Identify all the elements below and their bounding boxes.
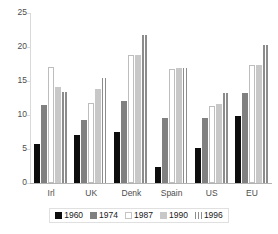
bar-us-1960[interactable]: [195, 148, 201, 183]
bar-group-denk: [114, 13, 148, 183]
y-tick-0: 0: [3, 178, 27, 187]
x-axis-tick-labels: IrlUKDenkSpainUSEU: [31, 186, 272, 202]
x-tick-eu: EU: [232, 186, 272, 202]
y-tick-20: 20: [3, 42, 27, 51]
x-tick-irl: Irl: [31, 186, 71, 202]
bar-eu-1987[interactable]: [249, 65, 255, 183]
bar-spain-1960[interactable]: [155, 167, 161, 183]
bar-uk-1996[interactable]: [102, 78, 108, 183]
legend-item-1987[interactable]: 1987: [125, 211, 153, 220]
bar-denk-1996[interactable]: [142, 35, 148, 183]
x-tick-spain: Spain: [152, 186, 192, 202]
bar-uk-1960[interactable]: [74, 135, 80, 183]
legend-item-1990[interactable]: 1990: [160, 211, 188, 220]
y-tick-5: 5: [3, 144, 27, 153]
bar-group-uk: [74, 13, 108, 183]
chart-legend: 19601974198719901996: [0, 208, 278, 223]
legend-item-1996[interactable]: 1996: [195, 211, 223, 220]
bar-uk-1987[interactable]: [88, 103, 94, 183]
legend-swatch-icon-1974: [90, 212, 97, 219]
legend-label-1987: 1987: [134, 211, 153, 220]
y-axis-tick-labels: 0510152025: [0, 0, 27, 196]
x-tick-uk: UK: [71, 186, 111, 202]
bar-denk-1990[interactable]: [135, 55, 141, 183]
bar-irl-1974[interactable]: [41, 105, 47, 183]
bar-group-eu: [235, 13, 269, 183]
bar-us-1990[interactable]: [216, 104, 222, 183]
bar-groups: [31, 13, 272, 183]
legend-item-1974[interactable]: 1974: [90, 211, 118, 220]
x-tick-us: US: [192, 186, 232, 202]
bar-spain-1996[interactable]: [183, 68, 189, 183]
y-tick-15: 15: [3, 76, 27, 85]
bar-chart: 0510152025 IrlUKDenkSpainUSEU 1960197419…: [0, 0, 278, 234]
x-axis-line: [30, 183, 272, 184]
bar-spain-1987[interactable]: [169, 69, 175, 183]
bar-irl-1960[interactable]: [34, 144, 40, 183]
legend-label-1990: 1990: [169, 211, 188, 220]
bar-eu-1960[interactable]: [235, 116, 241, 183]
legend-label-1996: 1996: [204, 211, 223, 220]
bar-denk-1987[interactable]: [128, 55, 134, 183]
legend-swatch-icon-1960: [55, 212, 62, 219]
bar-us-1996[interactable]: [223, 93, 229, 183]
bar-spain-1974[interactable]: [162, 118, 168, 183]
bar-us-1974[interactable]: [202, 118, 208, 183]
legend-swatch-icon-1987: [125, 212, 132, 219]
bar-us-1987[interactable]: [209, 106, 215, 183]
bar-group-spain: [155, 13, 189, 183]
bar-irl-1990[interactable]: [55, 87, 61, 183]
bar-denk-1960[interactable]: [114, 132, 120, 183]
legend-swatch-icon-1990: [160, 212, 167, 219]
bar-uk-1990[interactable]: [95, 89, 101, 183]
y-tick-10: 10: [3, 110, 27, 119]
bar-uk-1974[interactable]: [81, 120, 87, 183]
bar-group-irl: [34, 13, 68, 183]
legend-label-1974: 1974: [99, 211, 118, 220]
legend-items: 19601974198719901996: [49, 208, 229, 223]
bar-eu-1996[interactable]: [263, 45, 269, 183]
bar-spain-1990[interactable]: [176, 68, 182, 183]
legend-swatch-icon-1996: [195, 212, 202, 219]
bar-eu-1974[interactable]: [242, 93, 248, 183]
bar-irl-1996[interactable]: [62, 92, 68, 183]
legend-item-1960[interactable]: 1960: [55, 211, 83, 220]
y-tick-25: 25: [3, 8, 27, 17]
x-tick-denk: Denk: [111, 186, 151, 202]
bar-irl-1987[interactable]: [48, 67, 54, 183]
bar-eu-1990[interactable]: [256, 65, 262, 183]
bar-group-us: [195, 13, 229, 183]
legend-label-1960: 1960: [64, 211, 83, 220]
bar-denk-1974[interactable]: [121, 101, 127, 183]
